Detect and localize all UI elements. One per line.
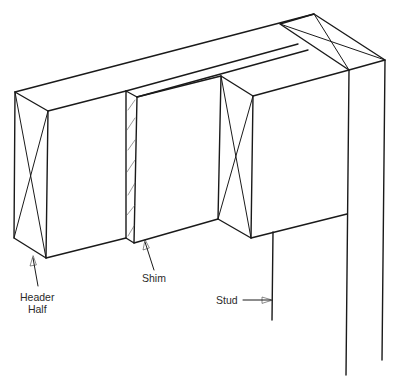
king-stud [346, 60, 385, 375]
label-header-half-line1: Header [20, 291, 54, 303]
jack-stud [272, 232, 273, 320]
top-plate-end [280, 14, 385, 70]
label-header-half: Header Half [20, 291, 54, 315]
label-stud: Stud [216, 294, 238, 306]
header-top-surface [15, 14, 349, 111]
left-header-half [14, 92, 126, 258]
shim [126, 91, 218, 243]
header-framing-diagram: Header Half Shim Stud [0, 0, 395, 378]
right-header-half [218, 76, 347, 238]
label-shim: Shim [142, 272, 166, 284]
label-header-half-line2: Half [20, 303, 54, 315]
